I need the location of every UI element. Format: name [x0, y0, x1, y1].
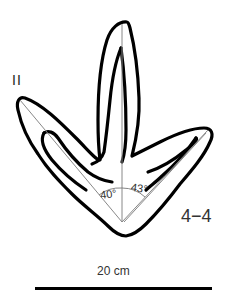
left-angle-label: 40° — [99, 187, 117, 201]
middle-toe-inner-outline — [92, 48, 121, 164]
scale-bar-label: 20 cm — [97, 264, 130, 278]
scale-bar — [35, 287, 212, 290]
toe-label: II — [12, 72, 22, 88]
footprint-outer-outline — [17, 22, 212, 236]
footprint-diagram — [0, 0, 230, 294]
specimen-label: 4−4 — [181, 206, 212, 227]
right-angle-label: 43° — [130, 181, 148, 195]
